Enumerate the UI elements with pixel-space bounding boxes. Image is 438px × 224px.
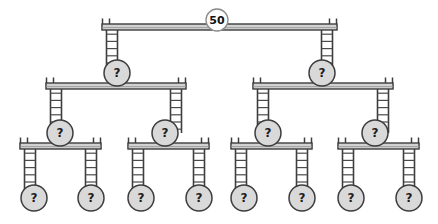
leaf-node-3[interactable]: [128, 185, 154, 211]
hanger-n3-to-leaf2: [86, 146, 97, 190]
beam-layer: [20, 19, 419, 150]
hanger-n5-to-leaf6: [297, 146, 308, 190]
diagram-canvas: ??????????????50: [0, 0, 438, 224]
mobile-tree-svg: [0, 0, 438, 224]
hanger-n4-to-leaf4: [194, 146, 205, 190]
leaf-node-4[interactable]: [186, 185, 212, 211]
node-level2-right[interactable]: [309, 60, 335, 86]
leaf-node-2[interactable]: [78, 185, 104, 211]
hanger-n6-to-leaf8: [404, 146, 415, 190]
hanger-n6-to-leaf7: [343, 146, 354, 190]
leaf-node-7[interactable]: [338, 185, 364, 211]
leaf-node-8[interactable]: [396, 185, 422, 211]
node-level2-left[interactable]: [104, 60, 130, 86]
hanger-n5-to-leaf5: [236, 146, 247, 190]
leaf-node-5[interactable]: [231, 185, 257, 211]
root-node-50[interactable]: [206, 9, 228, 31]
node-level3-3[interactable]: [255, 120, 281, 146]
hanger-n3-to-leaf1: [25, 146, 36, 190]
leaf-node-1[interactable]: [21, 185, 47, 211]
leaf-node-6[interactable]: [289, 185, 315, 211]
node-level3-4[interactable]: [362, 120, 388, 146]
hanger-n4-to-leaf3: [133, 146, 144, 190]
node-level3-1[interactable]: [47, 120, 73, 146]
node-layer: [21, 9, 422, 211]
hanger-layer: [25, 27, 415, 190]
node-level3-2[interactable]: [152, 120, 178, 146]
